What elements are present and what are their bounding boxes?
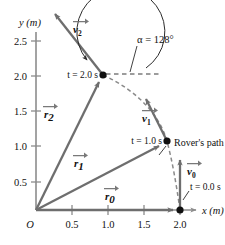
- svg-text:v2: v2: [73, 23, 82, 38]
- origin-label: O: [26, 219, 34, 230]
- vector-label-r0: r0: [104, 186, 119, 205]
- y-axis-title: y (m): [18, 17, 41, 29]
- data-point-t1: [163, 137, 170, 144]
- x-tick-label-0: 0.5: [65, 219, 78, 230]
- svg-text:r0: r0: [105, 190, 115, 205]
- svg-text:v0: v0: [187, 165, 196, 180]
- data-point-t0: [176, 206, 183, 213]
- y-tick-label-3: 2.0: [14, 71, 27, 82]
- x-tick-label-1: 1.0: [101, 219, 114, 230]
- data-point-t2: [99, 71, 106, 78]
- time-label-t1: t = 1.0 s: [131, 136, 162, 146]
- svg-text:r1: r1: [74, 157, 84, 172]
- y-tick-label-0: 0.5: [14, 177, 27, 188]
- rovers-path-leader: [159, 146, 166, 155]
- physics-vector-diagram: y (m) x (m) O 0.5 1.0 1.5 2.0 2.5 0.5 1.…: [0, 0, 225, 245]
- time-label-t2: t = 2.0 s: [67, 70, 98, 80]
- vector-label-v2: v2: [73, 19, 89, 38]
- x-tick-label-2: 1.5: [137, 219, 150, 230]
- vector-label-v0: v0: [187, 161, 202, 180]
- vector-label-r2: r2: [43, 104, 58, 123]
- svg-text:v1: v1: [142, 112, 151, 127]
- angle-label-leader: [130, 46, 137, 72]
- time-label-t0: t = 0.0 s: [190, 182, 221, 192]
- position-vector-r1: [36, 146, 159, 210]
- angle-label-alpha: α = 128°: [137, 34, 174, 45]
- t0-label-leader: [183, 191, 189, 200]
- x-axis-title: x (m): [201, 205, 224, 217]
- x-tick-label-3: 2.0: [173, 219, 186, 230]
- y-tick-label-4: 2.5: [14, 36, 27, 47]
- position-vector-r2: [36, 82, 99, 210]
- y-tick-label-2: 1.5: [14, 106, 27, 117]
- vector-label-r1: r1: [73, 153, 88, 172]
- y-axis: [31, 32, 41, 210]
- rovers-path-label: Rover's path: [174, 137, 224, 148]
- y-tick-label-1: 1.0: [14, 141, 27, 152]
- svg-text:r2: r2: [44, 108, 54, 123]
